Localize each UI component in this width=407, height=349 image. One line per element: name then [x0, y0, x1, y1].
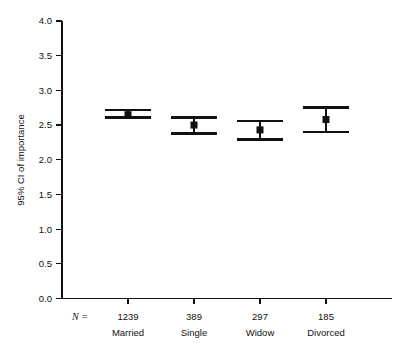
y-axis-title: 95% CI of importance [15, 114, 26, 205]
y-tick-label: 2.0 [39, 154, 52, 165]
error-bar-series [105, 108, 349, 140]
y-tick-label: 3.0 [39, 85, 52, 96]
n-equals-label: N = [71, 311, 88, 322]
y-tick-label: 0.0 [39, 293, 52, 304]
category-label-divorced: Divorced [307, 327, 345, 338]
category-labels: 1239Married389Single297Widow185Divorced [112, 311, 345, 338]
mean-marker [323, 116, 330, 123]
mean-marker [125, 111, 132, 118]
x-axis-ticks [128, 299, 326, 305]
y-tick-label: 4.0 [39, 15, 52, 26]
y-tick-label: 2.5 [39, 119, 52, 130]
category-label-widow: Widow [246, 327, 275, 338]
y-tick-label: 0.5 [39, 258, 52, 269]
error-bar-married [105, 110, 151, 118]
error-bar-widow [237, 121, 283, 140]
y-tick-label: 3.5 [39, 50, 52, 61]
y-tick-label: 1.0 [39, 224, 52, 235]
mean-marker [191, 122, 198, 129]
y-tick-label: 1.5 [39, 189, 52, 200]
category-label-married: Married [112, 327, 144, 338]
n-value-label: 389 [186, 311, 202, 322]
ci-error-bar-chart: 0.00.51.01.52.02.53.03.54.0 95% CI of im… [0, 0, 407, 349]
category-label-single: Single [181, 327, 207, 338]
mean-marker [257, 126, 264, 133]
n-value-label: 1239 [117, 311, 138, 322]
y-axis-ticks: 0.00.51.01.52.02.53.03.54.0 [39, 15, 62, 304]
n-value-label: 297 [252, 311, 268, 322]
error-bar-divorced [303, 108, 349, 132]
error-bar-single [171, 117, 217, 133]
n-value-label: 185 [318, 311, 334, 322]
plot-area: 0.00.51.01.52.02.53.03.54.0 95% CI of im… [0, 0, 407, 349]
